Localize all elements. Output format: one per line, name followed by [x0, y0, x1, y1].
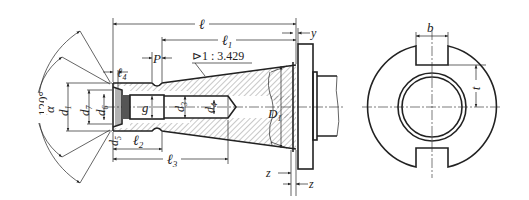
shank-break: [336, 76, 339, 136]
label-z-right: z: [308, 177, 314, 191]
label-l4: ℓ4: [117, 65, 126, 82]
label-b: b: [427, 20, 434, 35]
flange: [298, 44, 313, 169]
label-d3: d3: [173, 102, 189, 112]
label-d7: d7: [77, 105, 94, 117]
thread-relief: [122, 95, 130, 119]
label-d1: d1: [56, 106, 73, 117]
label-z-left: z: [265, 166, 271, 180]
label-d6: d6: [93, 106, 110, 117]
label-d5: d5: [107, 136, 123, 146]
shank-stub: [317, 76, 337, 136]
label-p: P: [152, 51, 161, 66]
side-view: ℓ ℓ1 P ⊳1 : 3.429 ℓ4 ℓ2 ℓ3 y: [26, 16, 345, 196]
flange-step: [313, 72, 317, 140]
label-y: y: [310, 26, 317, 40]
label-l2: ℓ2: [133, 133, 144, 150]
label-alpha: α: [42, 105, 57, 113]
label-taper: ⊳1 : 3.429: [192, 49, 244, 63]
label-l: ℓ: [199, 17, 205, 32]
technical-drawing: ℓ ℓ1 P ⊳1 : 3.429 ℓ4 ℓ2 ℓ3 y: [0, 0, 529, 200]
label-g: g: [142, 100, 149, 115]
label-d4: d4: [203, 103, 219, 113]
end-view: b t: [362, 20, 502, 178]
drawing-canvas: ℓ ℓ1 P ⊳1 : 3.429 ℓ4 ℓ2 ℓ3 y: [0, 0, 529, 200]
